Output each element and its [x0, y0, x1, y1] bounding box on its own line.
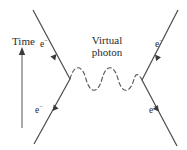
fermion-line-in-left: [33, 10, 70, 79]
virtual-photon-label-line2: photon: [78, 47, 136, 59]
particle-charge: −: [159, 37, 163, 44]
fermion-line-out-right: [142, 80, 177, 146]
particle-label-in-left: e−: [40, 38, 48, 50]
time-axis-label: Time: [12, 36, 35, 48]
particle-charge: −: [153, 103, 157, 110]
virtual-photon-label-line1: Virtual: [78, 35, 136, 47]
virtual-photon-label: Virtual photon: [78, 35, 136, 58]
feynman-diagram-canvas: Time Virtual photon e− e− e− e−: [0, 0, 187, 150]
particle-label-out-left: e−: [35, 104, 43, 116]
particle-label-out-right: e−: [149, 104, 157, 116]
particle-charge: −: [39, 103, 43, 110]
particle-label-in-right: e−: [155, 38, 163, 50]
diagram-vector-layer: [0, 0, 187, 150]
virtual-photon-wave: [70, 68, 142, 91]
time-axis-arrow: [19, 47, 25, 128]
particle-charge: −: [44, 37, 48, 44]
